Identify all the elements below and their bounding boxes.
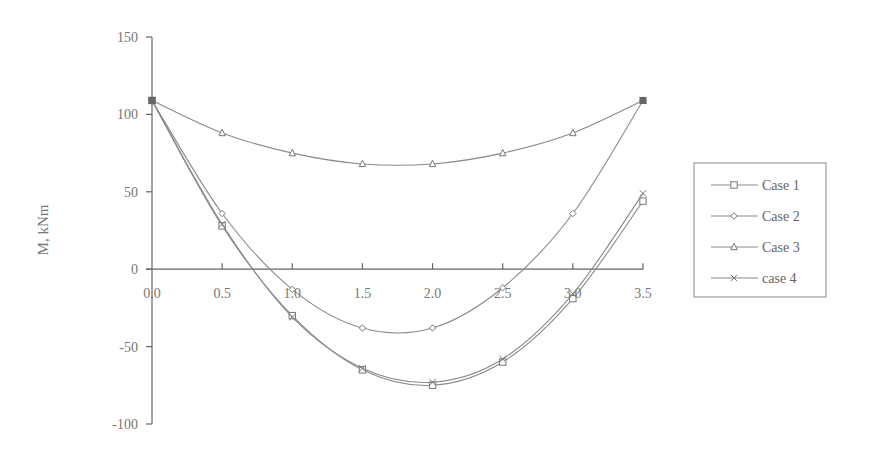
x-tick-label: 0.5 (213, 286, 231, 301)
chart: 150100500-50-100 0.00.51.01.52.02.53.03.… (0, 0, 876, 457)
y-tick-label: 150 (117, 30, 138, 45)
legend-box (694, 163, 826, 297)
y-tick-label: -50 (119, 340, 138, 355)
data-point (640, 190, 646, 196)
legend: Case 1Case 2Case 3case 4 (694, 163, 826, 297)
series-layer (149, 97, 647, 389)
series-3 (149, 97, 646, 167)
series-line (152, 100, 643, 382)
data-point (429, 325, 435, 331)
y-axis-label: M, kNm (35, 204, 51, 255)
legend-label: Case 1 (762, 178, 800, 193)
y-tick-label: 0 (131, 262, 138, 277)
y-tick-label: -100 (112, 417, 138, 432)
y-axis: 150100500-50-100 (112, 30, 152, 432)
data-point (640, 198, 646, 204)
x-tick-label: 0.0 (143, 286, 161, 301)
data-point (359, 325, 365, 331)
series-line (152, 100, 643, 165)
series-line (152, 100, 643, 385)
data-point (429, 382, 435, 388)
series-1 (149, 97, 646, 388)
series-4 (149, 97, 646, 385)
y-tick-label: 50 (124, 185, 138, 200)
legend-label: case 4 (762, 271, 797, 286)
data-point (149, 97, 156, 104)
legend-marker-icon (731, 182, 737, 188)
legend-label: Case 3 (762, 240, 800, 255)
data-point (640, 97, 647, 104)
y-tick-label: 100 (117, 107, 138, 122)
legend-label: Case 2 (762, 209, 800, 224)
x-tick-label: 1.5 (354, 286, 372, 301)
x-tick-label: 2.0 (424, 286, 442, 301)
x-tick-label: 3.5 (634, 286, 652, 301)
